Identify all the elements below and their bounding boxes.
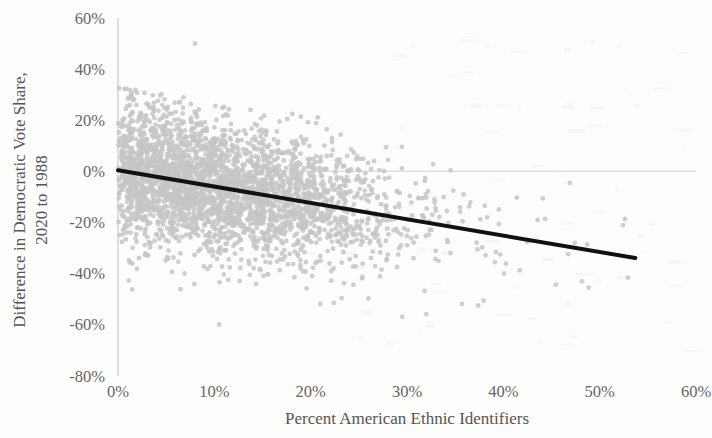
scatter-point <box>142 120 147 125</box>
scatter-point <box>316 195 321 200</box>
scatter-point <box>155 143 160 148</box>
scan-artifact <box>395 54 407 57</box>
scatter-point <box>220 128 225 133</box>
scatter-point <box>247 204 252 209</box>
scatter-point <box>308 181 313 186</box>
scatter-point <box>320 179 325 184</box>
scatter-point <box>214 147 219 152</box>
scatter-point <box>352 202 357 207</box>
scatter-point <box>130 110 135 115</box>
scatter-point <box>295 188 300 193</box>
scatter-point <box>207 230 212 235</box>
scatter-point <box>409 200 414 205</box>
scan-artifact <box>617 45 621 46</box>
scatter-point <box>117 130 122 135</box>
scatter-point <box>286 181 291 186</box>
scatter-point <box>347 257 352 262</box>
scatter-point <box>164 238 169 243</box>
scatter-point <box>227 107 232 112</box>
scatter-point <box>253 210 258 215</box>
scatter-point <box>226 173 231 178</box>
scatter-point <box>349 147 354 152</box>
scatter-point <box>254 226 259 231</box>
scatter-point <box>335 222 340 227</box>
scatter-point <box>468 200 473 205</box>
scatter-point <box>167 147 172 152</box>
scan-artifact <box>590 106 605 110</box>
scatter-point <box>249 155 254 160</box>
scatter-point <box>309 240 314 245</box>
scatter-point <box>318 237 323 242</box>
scatter-point <box>221 235 226 240</box>
scatter-point <box>227 265 232 270</box>
scatter-point <box>339 260 344 265</box>
scatter-point <box>128 103 133 108</box>
scatter-point <box>222 248 227 253</box>
scatter-point <box>194 215 199 220</box>
scatter-point <box>344 221 349 226</box>
scatter-point <box>208 153 213 158</box>
scatter-point <box>247 215 252 220</box>
scatter-point <box>290 112 295 117</box>
scatter-point <box>366 161 371 166</box>
scatter-point <box>194 139 199 144</box>
scatter-point <box>433 205 438 210</box>
scatter-point <box>339 232 344 237</box>
scatter-point <box>220 105 225 110</box>
scan-artifact <box>417 247 425 251</box>
scan-artifact <box>362 311 372 315</box>
scatter-point <box>238 224 243 229</box>
scatter-point <box>294 205 299 210</box>
scatter-point <box>386 232 391 237</box>
scatter-point <box>118 183 123 188</box>
scatter-point <box>195 166 200 171</box>
scatter-point <box>579 279 584 284</box>
scatter-point <box>351 239 356 244</box>
scatter-point <box>253 257 258 262</box>
scatter-point <box>281 188 286 193</box>
x-tick-label: 50% <box>585 382 616 401</box>
scatter-point <box>256 220 261 225</box>
scatter-point <box>378 243 383 248</box>
scatter-point <box>310 165 315 170</box>
scatter-point <box>160 166 165 171</box>
scatter-point <box>129 203 134 208</box>
scatter-point <box>384 145 389 150</box>
scatter-point <box>295 210 300 215</box>
scatter-point <box>328 179 333 184</box>
scatter-point <box>162 106 167 111</box>
scatter-point <box>157 118 162 123</box>
scatter-point <box>314 121 319 126</box>
scan-artifact <box>683 148 687 151</box>
scan-artifact <box>471 104 481 108</box>
scatter-point <box>393 205 398 210</box>
scatter-point <box>378 250 383 255</box>
scatter-point <box>202 264 207 269</box>
scatter-point <box>240 180 245 185</box>
scatter-point <box>378 274 383 279</box>
scatter-point <box>432 200 437 205</box>
scatter-point <box>180 111 185 116</box>
scatter-point <box>405 234 410 239</box>
scatter-point <box>161 234 166 239</box>
scatter-point <box>296 222 301 227</box>
scatter-point <box>433 248 438 253</box>
scatter-point <box>210 224 215 229</box>
scatter-point <box>126 278 131 283</box>
scatter-point <box>219 142 224 147</box>
scatter-point <box>156 194 161 199</box>
scatter-point <box>223 224 228 229</box>
scatter-point <box>445 240 450 245</box>
scan-artifact <box>400 127 404 130</box>
scan-artifact <box>628 92 632 94</box>
scatter-point <box>206 164 211 169</box>
scatter-point <box>360 234 365 239</box>
scatter-point <box>328 213 333 218</box>
scatter-point <box>192 253 197 258</box>
scatter-point <box>394 226 399 231</box>
scatter-point <box>299 219 304 224</box>
scatter-point <box>240 167 245 172</box>
scan-artifact <box>637 234 645 237</box>
scatter-point <box>400 145 405 150</box>
scatter-point <box>167 227 172 232</box>
